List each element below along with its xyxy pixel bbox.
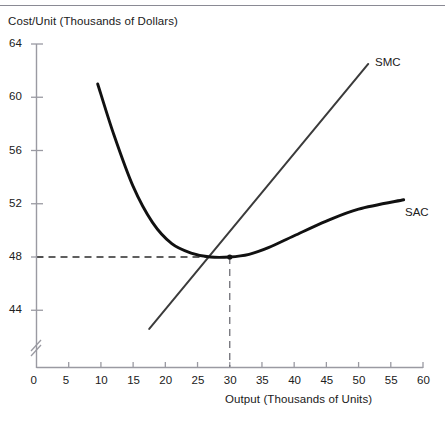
x-tick-label: 45 bbox=[320, 374, 333, 386]
x-tick-label: 35 bbox=[256, 374, 269, 386]
x-tick-label: 25 bbox=[192, 374, 205, 386]
y-tick-label: 60 bbox=[9, 90, 22, 102]
y-tick-label: 56 bbox=[9, 144, 22, 156]
x-tick-label: 60 bbox=[417, 374, 430, 386]
x-tick-label: 0 bbox=[31, 374, 37, 386]
x-tick-label: 50 bbox=[353, 374, 366, 386]
y-tick-label: 52 bbox=[9, 197, 22, 209]
plot-area bbox=[0, 0, 445, 422]
x-tick-label: 20 bbox=[159, 374, 172, 386]
curve-paths bbox=[98, 64, 404, 329]
cost-curve-chart: Cost/Unit (Thousands of Dollars) Output … bbox=[0, 0, 445, 422]
x-tick-label: 55 bbox=[385, 374, 398, 386]
intersection-marker bbox=[227, 254, 232, 259]
tick-marks bbox=[31, 44, 423, 368]
x-tick-label: 30 bbox=[224, 374, 237, 386]
y-tick-label: 44 bbox=[9, 303, 22, 315]
x-tick-label: 40 bbox=[288, 374, 301, 386]
x-tick-label: 5 bbox=[63, 374, 69, 386]
x-tick-label: 15 bbox=[127, 374, 140, 386]
y-tick-label: 48 bbox=[9, 250, 22, 262]
y-tick-label: 64 bbox=[9, 37, 22, 49]
x-tick-label: 10 bbox=[95, 374, 108, 386]
guide-lines bbox=[37, 257, 230, 367]
